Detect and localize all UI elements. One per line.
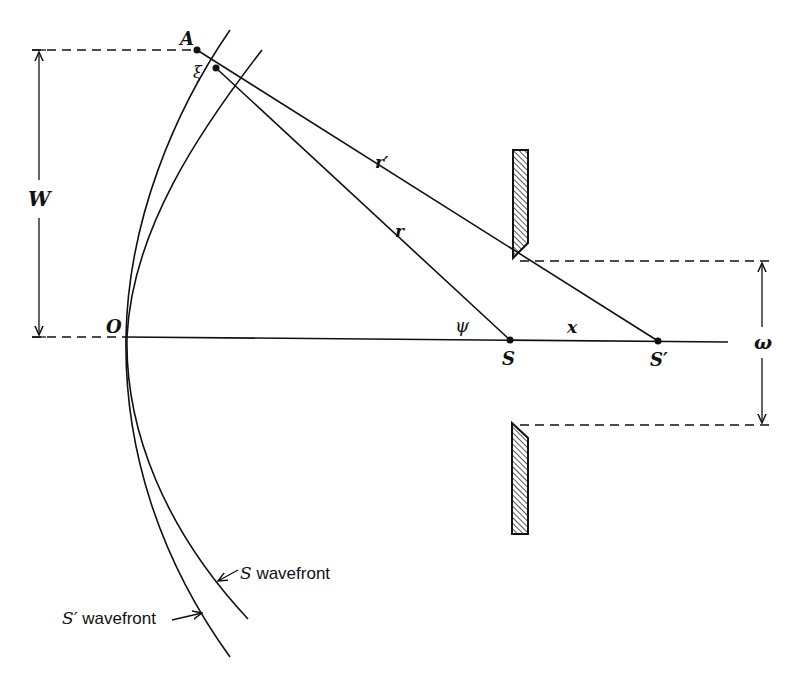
ray-r-prime bbox=[197, 50, 658, 341]
s-wavefront-text: wavefront bbox=[252, 564, 331, 583]
s-prime-wavefront-pointer bbox=[172, 613, 202, 620]
optical-axis bbox=[126, 337, 728, 342]
xi-label: ξ bbox=[193, 63, 203, 82]
w-label: W bbox=[28, 187, 53, 211]
point-s-prime-dot bbox=[655, 338, 662, 345]
point-a-label: A bbox=[178, 28, 194, 49]
s-prime-wavefront-curve bbox=[126, 30, 230, 657]
ray-r bbox=[216, 68, 510, 340]
r-label: r bbox=[395, 221, 405, 241]
s-wavefront-symbol: S bbox=[240, 563, 252, 583]
point-xi-dot bbox=[213, 65, 220, 72]
point-s-prime-label: S′ bbox=[650, 349, 668, 370]
point-a-dot bbox=[194, 47, 201, 54]
s-prime-wavefront-text: wavefront bbox=[78, 609, 157, 628]
r-prime-label: r′ bbox=[375, 152, 389, 172]
point-s-label: S bbox=[502, 348, 515, 369]
s-wavefront-pointer bbox=[218, 570, 238, 581]
psi-label: ψ bbox=[455, 315, 470, 336]
s-prime-wavefront-symbol: S′ bbox=[62, 608, 78, 628]
point-s-dot bbox=[507, 337, 514, 344]
point-o-label: O bbox=[106, 316, 122, 337]
s-wavefront-curve bbox=[127, 50, 262, 619]
optics-diagram: W ω A ξ O S S′ r′ r x ψ S wavefront S′ w… bbox=[0, 0, 799, 689]
aperture-lower-jaw bbox=[512, 423, 528, 534]
x-label: x bbox=[566, 317, 578, 337]
aperture-upper-jaw bbox=[513, 150, 528, 258]
omega-label: ω bbox=[754, 331, 772, 353]
s-wavefront-label: S wavefront bbox=[240, 563, 330, 583]
s-prime-wavefront-label: S′ wavefront bbox=[62, 608, 156, 628]
